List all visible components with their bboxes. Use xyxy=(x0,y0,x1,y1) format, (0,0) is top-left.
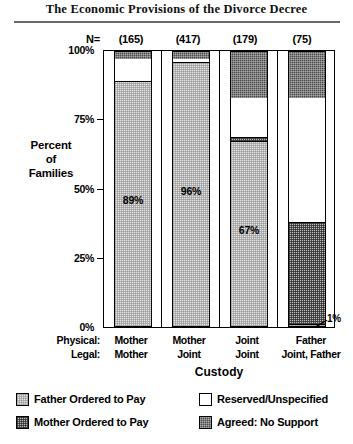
y-axis-title-line-2: of xyxy=(8,152,94,166)
bar-value-label-1: 96% xyxy=(172,185,210,197)
category-divider-3 xyxy=(277,51,278,327)
chart-legend: Father Ordered to Pay Mother Ordered to … xyxy=(0,390,353,438)
x-axis-row-labels: Physical: Legal: xyxy=(4,333,100,361)
sample-size-value-0: (165) xyxy=(105,33,157,45)
segment-agreed-0[interactable] xyxy=(114,51,152,59)
bar-mother-mother[interactable]: 89% xyxy=(114,51,152,327)
segment-reserved-3[interactable] xyxy=(288,98,326,222)
segment-agreed-1[interactable] xyxy=(172,51,210,59)
x-category-3: Father Joint, Father xyxy=(269,333,353,361)
x-category-3-legal: Joint, Father xyxy=(269,347,353,361)
sample-size-value-2: (179) xyxy=(219,33,271,45)
x-axis-row-label-physical: Physical: xyxy=(4,333,100,347)
category-divider-2 xyxy=(219,51,220,327)
legend-label-mother: Mother Ordered to Pay xyxy=(34,416,148,428)
legend-label-reserved: Reserved/Unspecified xyxy=(217,393,328,405)
x-axis-title: Custody xyxy=(103,365,335,379)
legend-item-mother-ordered-to-pay[interactable]: Mother Ordered to Pay xyxy=(16,413,148,431)
legend-swatch-mother-icon xyxy=(16,416,29,429)
y-axis-title-line-1: Percent xyxy=(8,138,94,152)
sample-size-value-3: (75) xyxy=(276,33,328,45)
bar-father-jointfather[interactable] xyxy=(288,51,326,327)
x-category-3-physical: Father xyxy=(269,333,353,347)
bar-joint-joint[interactable]: 67% xyxy=(230,51,268,327)
sample-size-value-1: (417) xyxy=(162,33,214,45)
plot-area: 89% 96% 67% xyxy=(103,50,335,328)
bar-value-label-2: 67% xyxy=(230,224,268,236)
callout-label-1-percent: 1% xyxy=(327,313,341,324)
legend-item-agreed-no-support[interactable]: Agreed: No Support xyxy=(199,413,318,431)
segment-mother-3[interactable] xyxy=(288,222,326,324)
legend-label-father: Father Ordered to Pay xyxy=(34,393,145,405)
legend-item-reserved-unspecified[interactable]: Reserved/Unspecified xyxy=(199,390,328,408)
bar-mother-joint[interactable]: 96% xyxy=(172,51,210,327)
segment-reserved-0[interactable] xyxy=(114,59,152,81)
page-title: The Economic Provisions of the Divorce D… xyxy=(0,2,353,17)
legend-swatch-agreed-icon xyxy=(199,416,212,429)
bar-value-label-0: 89% xyxy=(114,194,152,206)
category-divider-1 xyxy=(161,51,162,327)
segment-agreed-2[interactable] xyxy=(230,51,268,98)
y-axis-title: Percent of Families xyxy=(8,138,94,180)
legend-swatch-father-icon xyxy=(16,393,29,406)
y-tick-label-100: 100% xyxy=(48,44,94,56)
legend-label-agreed: Agreed: No Support xyxy=(217,416,318,428)
title-divider xyxy=(14,21,340,23)
legend-item-father-ordered-to-pay[interactable]: Father Ordered to Pay xyxy=(16,390,145,408)
segment-reserved-2[interactable] xyxy=(230,98,268,137)
x-axis-row-label-legal: Legal: xyxy=(4,347,100,361)
legend-swatch-reserved-icon xyxy=(199,393,212,406)
y-tick-label-75: 75% xyxy=(48,113,94,125)
segment-agreed-3[interactable] xyxy=(288,51,326,98)
y-tick-label-50: 50% xyxy=(48,183,94,195)
y-axis-title-line-3: Families xyxy=(8,166,94,180)
callout-leader-line xyxy=(314,320,328,328)
y-tick-label-25: 25% xyxy=(48,252,94,264)
y-tick-label-0: 0% xyxy=(48,321,94,333)
